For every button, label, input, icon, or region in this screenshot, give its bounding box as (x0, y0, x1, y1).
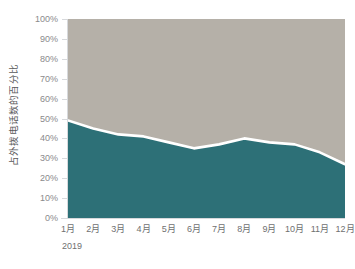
y-tick-label: 50% (40, 114, 58, 124)
area-chart: 占外拨电话数的百分比 100%90%80%70%60%50%40%30%20%1… (0, 0, 355, 269)
y-tick-label: 20% (40, 173, 58, 183)
y-tick-mark (62, 99, 67, 100)
y-axis-title-label: 占外拨电话数的百分比 (6, 64, 20, 166)
y-tick-label: 0% (45, 213, 58, 223)
x-tick-label: 5月 (162, 222, 176, 235)
x-tick-label: 10月 (285, 222, 304, 235)
y-tick-mark (62, 79, 67, 80)
y-tick-mark (62, 138, 67, 139)
y-tick-mark (62, 178, 67, 179)
x-tick-label: 1月 (61, 222, 75, 235)
y-tick-mark (62, 198, 67, 199)
x-tick-label: 6月 (187, 222, 201, 235)
y-tick-label: 30% (40, 153, 58, 163)
x-tick-label: 4月 (137, 222, 151, 235)
y-tick-mark (62, 119, 67, 120)
y-tick-label: 90% (40, 34, 58, 44)
y-tick-mark (62, 158, 67, 159)
y-axis-tick-labels: 100%90%80%70%60%50%40%30%20%10%0% (22, 13, 62, 225)
y-tick-label: 60% (40, 94, 58, 104)
x-tick-label: 12月 (335, 222, 354, 235)
stacked-area-plot (68, 19, 345, 218)
plot-area (68, 19, 345, 218)
y-axis-title: 占外拨电话数的百分比 (2, 0, 24, 230)
period-caption: 2019 (62, 241, 82, 251)
y-tick-label: 80% (40, 54, 58, 64)
x-tick-label: 2月 (86, 222, 100, 235)
x-tick-label: 3月 (111, 222, 125, 235)
x-tick-label: 11月 (311, 222, 329, 235)
y-tick-mark (62, 39, 67, 40)
x-tick-label: 9月 (262, 222, 276, 235)
y-tick-mark (62, 218, 67, 219)
x-tick-label: 7月 (212, 222, 226, 235)
y-tick-label: 40% (40, 133, 58, 143)
y-tick-mark (62, 59, 67, 60)
y-tick-label: 10% (40, 193, 58, 203)
y-tick-label: 70% (40, 74, 58, 84)
y-tick-label: 100% (35, 14, 58, 24)
x-axis-line (61, 218, 345, 219)
y-tick-mark (62, 19, 67, 20)
x-axis-tick-labels: 1月2月3月4月5月6月7月8月9月10月11月12月 (68, 222, 345, 238)
x-tick-label: 8月 (237, 222, 251, 235)
